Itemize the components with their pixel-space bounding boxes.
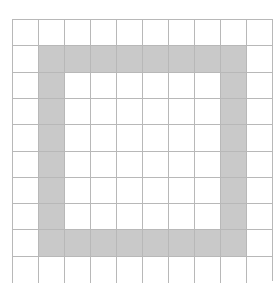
grid-cell <box>64 72 91 99</box>
grid-cell <box>64 124 91 152</box>
shaded-cell <box>194 229 221 257</box>
grid-cell <box>12 124 39 152</box>
grid-cell <box>194 72 221 99</box>
shaded-cell <box>38 203 65 230</box>
shaded-cell <box>64 229 91 257</box>
shaded-cell <box>90 229 117 257</box>
grid-cell <box>194 124 221 152</box>
grid-cell <box>168 124 195 152</box>
grid-cell <box>64 98 91 125</box>
grid-cell <box>246 256 273 283</box>
grid-cell <box>90 203 117 230</box>
shaded-cell <box>38 229 65 257</box>
grid-cell <box>194 203 221 230</box>
grid-cell <box>246 72 273 99</box>
grid-cell <box>142 151 169 178</box>
grid-cell <box>142 177 169 204</box>
grid-cell <box>90 151 117 178</box>
grid-cell <box>168 19 195 46</box>
grid-cell <box>38 256 65 283</box>
shaded-cell <box>38 98 65 125</box>
shaded-cell <box>38 177 65 204</box>
grid-cell <box>246 151 273 178</box>
grid-cell <box>246 98 273 125</box>
grid-cell <box>12 19 39 46</box>
grid-cell <box>12 151 39 178</box>
shaded-cell <box>142 45 169 73</box>
grid-cell <box>116 256 143 283</box>
shaded-cell <box>220 72 247 99</box>
grid-cell <box>168 72 195 99</box>
shaded-cell <box>220 177 247 204</box>
shaded-cell <box>220 98 247 125</box>
grid-cell <box>168 151 195 178</box>
grid-cell <box>168 203 195 230</box>
grid-cell <box>246 177 273 204</box>
shaded-cell <box>220 203 247 230</box>
grid-cell <box>38 19 65 46</box>
grid-cell <box>194 19 221 46</box>
grid-cell <box>142 203 169 230</box>
grid-cell <box>142 256 169 283</box>
grid-cell <box>194 98 221 125</box>
grid-cell <box>90 256 117 283</box>
grid-cell <box>194 151 221 178</box>
grid-cell <box>90 124 117 152</box>
grid-cell <box>220 256 247 283</box>
grid-cell <box>90 72 117 99</box>
grid-cell <box>246 203 273 230</box>
grid-cell <box>246 229 273 257</box>
shaded-cell <box>38 151 65 178</box>
grid-cell <box>116 19 143 46</box>
shaded-cell <box>38 124 65 152</box>
shaded-cell <box>116 45 143 73</box>
grid-cell <box>246 19 273 46</box>
grid-cell <box>116 98 143 125</box>
grid-cell <box>246 45 273 73</box>
shaded-cell <box>220 229 247 257</box>
grid-cell <box>12 98 39 125</box>
shaded-cell <box>64 45 91 73</box>
shaded-cell <box>220 124 247 152</box>
grid-cell <box>64 151 91 178</box>
grid-cell <box>12 229 39 257</box>
square-grid <box>12 19 272 281</box>
grid-cell <box>90 19 117 46</box>
grid-cell <box>64 203 91 230</box>
grid-cell <box>90 98 117 125</box>
grid-cell <box>90 177 117 204</box>
grid-cell <box>12 177 39 204</box>
grid-cell <box>142 124 169 152</box>
grid-cell <box>116 124 143 152</box>
grid-cell <box>64 19 91 46</box>
grid-cell <box>116 151 143 178</box>
shaded-cell <box>194 45 221 73</box>
grid-cell <box>116 72 143 99</box>
grid-cell <box>168 177 195 204</box>
grid-cell <box>194 256 221 283</box>
grid-cell <box>142 72 169 99</box>
shaded-cell <box>220 151 247 178</box>
grid-cell <box>142 98 169 125</box>
grid-cell <box>64 256 91 283</box>
grid-cell <box>12 45 39 73</box>
shaded-cell <box>38 72 65 99</box>
grid-cell <box>12 203 39 230</box>
grid-right-edge <box>272 19 273 281</box>
grid-cell <box>12 256 39 283</box>
shaded-cell <box>142 229 169 257</box>
grid-cell <box>64 177 91 204</box>
grid-cell <box>220 19 247 46</box>
shaded-cell <box>90 45 117 73</box>
shaded-cell <box>168 45 195 73</box>
grid-cell <box>12 72 39 99</box>
grid-cell <box>194 177 221 204</box>
grid-cell <box>168 98 195 125</box>
shaded-cell <box>168 229 195 257</box>
grid-cell <box>246 124 273 152</box>
shaded-cell <box>116 229 143 257</box>
grid-cell <box>168 256 195 283</box>
grid-cell <box>116 203 143 230</box>
grid-cell <box>142 19 169 46</box>
shaded-cell <box>38 45 65 73</box>
